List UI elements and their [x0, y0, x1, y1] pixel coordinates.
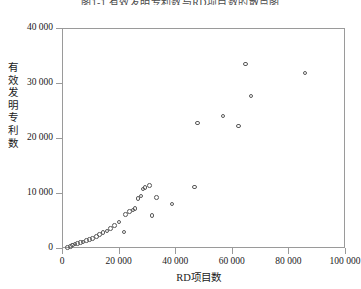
x-axis-tick	[62, 248, 63, 254]
scatter-points-layer	[63, 29, 346, 249]
figure-caption: 图1-1 有效发明专利数与RD项目数的散点图	[0, 0, 361, 5]
y-axis-tick-label: 10 000	[27, 188, 53, 197]
y-axis-tick-label: 40 000	[27, 23, 53, 32]
x-axis-tick-label: 20 000	[106, 256, 132, 266]
x-axis-tick-label: 0	[60, 256, 65, 266]
y-axis-title-char-0: 有	[6, 62, 20, 75]
y-axis-tick	[56, 28, 62, 29]
x-axis-tick	[175, 248, 176, 254]
x-axis-tick-label: 40 000	[162, 256, 188, 266]
scatter-point	[236, 124, 241, 129]
y-axis-tick	[56, 83, 62, 84]
scatter-point	[192, 185, 197, 190]
y-axis-title: 有效发明专利数	[6, 62, 20, 150]
x-axis-tick-label: 80 000	[275, 256, 301, 266]
x-axis-tick-label: 60 000	[219, 256, 245, 266]
x-axis-tick	[288, 248, 289, 254]
scatter-point	[195, 121, 200, 126]
x-axis-tick	[232, 248, 233, 254]
scatter-point	[122, 230, 127, 235]
scatter-point	[249, 94, 254, 99]
scatter-point	[139, 194, 144, 199]
scatter-point	[303, 71, 308, 76]
y-axis-tick-label: 30 000	[27, 78, 53, 87]
scatter-point	[147, 183, 152, 188]
scatter-point	[117, 220, 122, 225]
y-axis-title-char-6: 数	[6, 138, 20, 151]
y-axis-title-char-1: 效	[6, 75, 20, 88]
scatter-point	[112, 223, 117, 228]
scatter-point	[133, 206, 138, 211]
plot-area	[62, 28, 345, 248]
scatter-point	[150, 213, 155, 218]
x-axis-tick-label: 100 000	[330, 256, 361, 266]
y-axis-title-char-3: 明	[6, 100, 20, 113]
scatter-point	[243, 62, 248, 67]
x-axis-title: RD项目数	[0, 269, 361, 284]
y-axis-title-char-4: 专	[6, 112, 20, 125]
scatter-chart-figure: 图1-1 有效发明专利数与RD项目数的散点图 有效发明专利数 RD项目数 010…	[0, 0, 361, 289]
scatter-point	[221, 114, 226, 119]
y-axis-tick	[56, 138, 62, 139]
scatter-point	[154, 195, 159, 200]
y-axis-tick	[56, 193, 62, 194]
x-axis-tick	[345, 248, 346, 254]
y-axis-title-char-5: 利	[6, 125, 20, 138]
y-axis-tick-label: 20 000	[27, 133, 53, 142]
y-axis-tick-label: 0	[48, 243, 53, 252]
scatter-point	[170, 202, 175, 207]
y-axis-title-char-2: 发	[6, 87, 20, 100]
x-axis-tick	[119, 248, 120, 254]
